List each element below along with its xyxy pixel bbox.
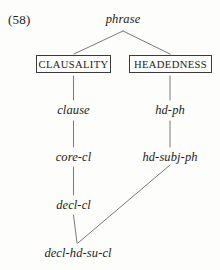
- node-hd-subj-ph: hd-subj-ph: [142, 151, 197, 164]
- node-decl-cl: decl-cl: [56, 199, 91, 212]
- edge-hdsubjph-declhdsucl: [78, 165, 170, 243]
- node-core-cl: core-cl: [56, 151, 92, 164]
- edge-phrase-headedness: [123, 31, 170, 54]
- edge-phrase-clausality: [74, 31, 123, 54]
- node-headedness-box: HEADEDNESS: [129, 55, 212, 73]
- example-number: (58): [8, 13, 30, 26]
- node-phrase: phrase: [106, 13, 141, 26]
- node-hd-ph: hd-ph: [155, 104, 185, 117]
- tree-edges: [0, 0, 220, 270]
- figure-canvas: (58) phrase CLAUSALITY HEADEDNESS clause…: [0, 0, 220, 270]
- edge-declcl-declhdsucl: [74, 215, 78, 243]
- node-clause: clause: [57, 104, 90, 117]
- node-clausality-box: CLAUSALITY: [36, 55, 111, 73]
- node-decl-hd-su-cl: decl-hd-su-cl: [44, 247, 111, 260]
